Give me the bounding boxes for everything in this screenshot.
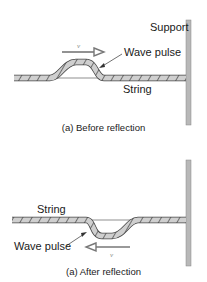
rope-a [14,62,186,78]
arrow-right-icon [94,48,104,56]
wave-pulse-label-a: Wave pulse [124,46,181,58]
support-wall-b [186,160,191,266]
arrow-left-icon [86,243,96,251]
string-label-a: String [123,83,152,95]
velocity-label-b: v [110,251,113,259]
velocity-label-a: v [77,42,80,50]
rope-b [12,220,186,236]
wave-pulse-label-b: Wave pulse [14,240,71,252]
caption-before: (a) Before reflection [0,122,207,133]
support-label: Support [150,21,189,33]
caption-after: (a) After reflection [0,266,207,277]
support-wall-a [186,20,191,125]
string-label-b: String [37,203,66,215]
